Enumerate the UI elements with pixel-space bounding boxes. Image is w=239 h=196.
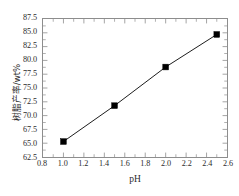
y-axis-tick-label: 77.5 [23,70,37,78]
x-axis-tick-label: 0.8 [37,160,47,168]
x-axis-tick-label: 1.4 [99,160,109,168]
x-axis-tick-label: 1.2 [78,160,88,168]
y-axis-tick-label: 65.0 [23,140,37,148]
data-point-marker [61,139,67,145]
y-axis-tick-label: 87.5 [23,14,37,22]
y-axis-tick-label: 72.5 [23,98,37,106]
y-axis-tick-label: 62.5 [23,154,37,162]
plot-canvas [43,19,227,157]
x-axis-title: pH [42,174,228,184]
x-axis-tick-label: 1.0 [58,160,68,168]
data-point-marker [214,32,220,38]
data-point-marker [163,64,169,70]
y-axis-tick-label: 85.0 [23,28,37,36]
y-axis-title: 树脂产率/wt% [13,38,22,148]
y-axis-tick-label: 70.0 [23,112,37,120]
x-axis-tick-label: 2.0 [161,160,171,168]
x-axis-tick-label: 1.8 [140,160,150,168]
data-point-marker [112,103,118,109]
x-axis-tick-label: 2.4 [202,160,212,168]
y-axis-tick-label: 82.5 [23,42,37,50]
y-axis-tick-label: 67.5 [23,126,37,134]
y-axis-tick-label: 75.0 [23,84,37,92]
x-axis-tick-labels: 0.81.01.21.41.61.82.02.22.42.6 [42,160,228,172]
y-axis-tick-label: 80.0 [23,56,37,64]
x-axis-tick-label: 2.6 [223,160,233,168]
x-axis-tick-label: 1.6 [120,160,130,168]
plot-area [42,18,228,158]
chart-figure: 62.565.067.570.072.575.077.580.082.585.0… [0,0,239,196]
x-axis-tick-label: 2.2 [182,160,192,168]
